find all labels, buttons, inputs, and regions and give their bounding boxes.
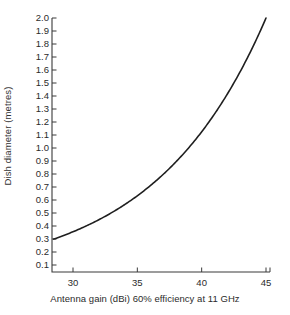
x-axis-tick-label: 45 <box>251 278 281 288</box>
plot-area <box>0 0 290 315</box>
x-axis-tick-label: 40 <box>187 278 217 288</box>
x-axis-tick-label: 30 <box>58 278 88 288</box>
chart-figure: Dish diameter (metres) 0.10.20.30.40.50.… <box>0 0 290 315</box>
x-axis-tick-label: 35 <box>122 278 152 288</box>
data-series-line <box>54 18 266 239</box>
x-axis-tick-labels: 30354045 <box>0 278 290 291</box>
x-axis-label: Antenna gain (dBi) 60% efficiency at 11 … <box>0 293 290 305</box>
